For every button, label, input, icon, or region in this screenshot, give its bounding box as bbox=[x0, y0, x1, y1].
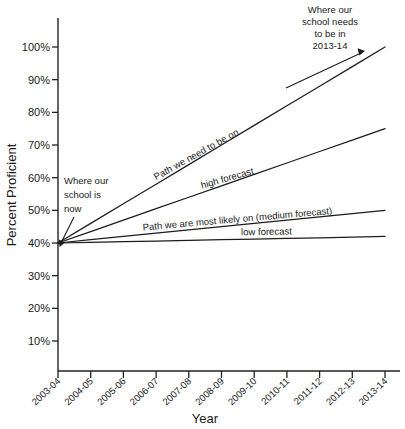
y-tick-label: 100% bbox=[22, 41, 50, 53]
chart-container: 10%20%30%40%50%60%70%80%90%100% 2003-042… bbox=[0, 0, 405, 429]
anno-now-line-2: school is bbox=[64, 189, 101, 200]
percent-proficient-line-chart: 10%20%30%40%50%60%70%80%90%100% 2003-042… bbox=[0, 0, 405, 429]
y-tick-label: 40% bbox=[28, 237, 50, 249]
y-tick-label: 50% bbox=[28, 204, 50, 216]
y-tick-label: 70% bbox=[28, 139, 50, 151]
anno-goal-line-3: to be in bbox=[314, 28, 345, 39]
series-label-3: low forecast bbox=[241, 225, 292, 237]
anno-goal-line-4: 2013-14 bbox=[313, 40, 348, 51]
y-tick-label: 90% bbox=[28, 74, 50, 86]
x-axis-title: Year bbox=[192, 411, 219, 426]
anno-now-line-3: now bbox=[64, 203, 82, 214]
anno-goal-line-1: Where our bbox=[308, 4, 352, 15]
y-tick-label: 20% bbox=[28, 302, 50, 314]
y-tick-label: 60% bbox=[28, 172, 50, 184]
y-tick-label: 10% bbox=[28, 335, 50, 347]
anno-now-line-1: Where our bbox=[64, 175, 108, 186]
y-tick-label: 30% bbox=[28, 270, 50, 282]
y-tick-label: 80% bbox=[28, 106, 50, 118]
y-axis-title: Percent Proficient bbox=[4, 143, 19, 246]
anno-goal-line-2: school needs bbox=[302, 16, 358, 27]
